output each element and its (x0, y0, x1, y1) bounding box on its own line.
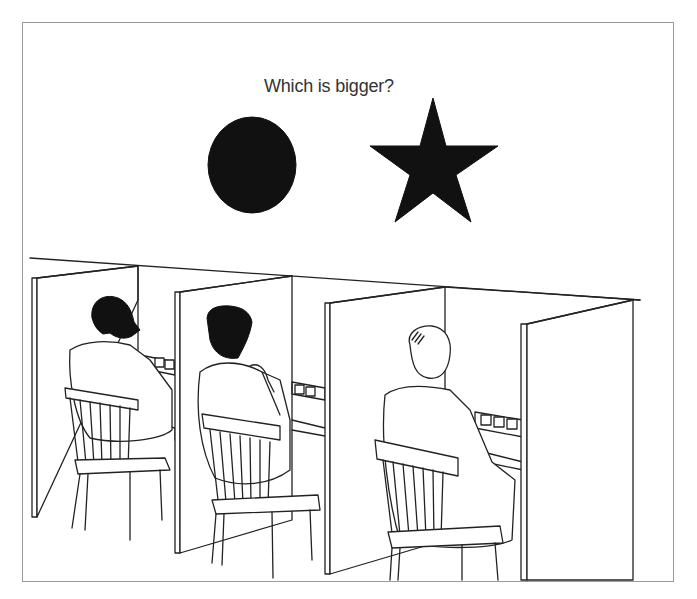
star-shape (370, 98, 498, 222)
cubicle-scene (0, 0, 697, 599)
cubicle-partition-4 (521, 300, 633, 580)
control-panel-2 (292, 382, 325, 436)
circle-shape (208, 117, 296, 213)
